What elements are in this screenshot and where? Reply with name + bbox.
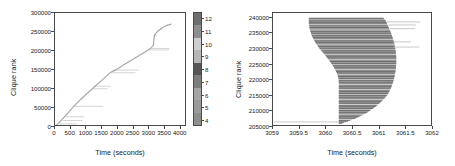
colorbar-tick-0: 4 — [205, 117, 208, 124]
right-x-tickmark-2 — [325, 126, 326, 129]
right-x-axis-label: Time (seconds) — [272, 148, 432, 157]
colorbar-tickmark-8 — [202, 18, 204, 19]
colorbar-tick-6: 10 — [205, 40, 212, 47]
right-y-tick-6: 235000 — [249, 29, 269, 36]
right-x-tick-6: 3062 — [425, 129, 439, 136]
left-y-tickmark-3 — [51, 69, 54, 70]
left-x-tickmark-5 — [133, 126, 134, 129]
right-y-tick-2: 215000 — [249, 91, 269, 98]
left-x-tickmark-8 — [180, 126, 181, 129]
left-plot-svg — [55, 13, 185, 125]
colorbar-tickmark-3 — [202, 82, 204, 83]
right-y-tick-3: 220000 — [249, 76, 269, 83]
left-x-tick-8: 4000 — [173, 129, 187, 136]
colorbar-tick-3: 7 — [205, 78, 208, 85]
left-y-tickmark-6 — [51, 12, 54, 13]
colorbar — [193, 12, 202, 126]
left-x-tickmark-7 — [164, 126, 165, 129]
left-y-tickmark-4 — [51, 50, 54, 51]
colorbar-tick-7: 11 — [205, 27, 211, 34]
right-y-tick-4: 225000 — [249, 60, 269, 67]
left-x-tick-1: 500 — [65, 129, 75, 136]
left-y-tickmark-2 — [51, 88, 54, 89]
right-x-tick-5: 3061.5 — [396, 129, 415, 136]
left-y-tick-4: 200000 — [31, 47, 51, 54]
colorbar-tickmark-2 — [202, 95, 204, 96]
right-y-tickmark-5 — [269, 48, 272, 49]
right-dense-band — [309, 18, 396, 124]
left-x-tickmark-6 — [148, 126, 149, 129]
right-x-tick-0: 3059 — [265, 129, 279, 136]
left-y-tickmark-5 — [51, 31, 54, 32]
right-y-tickmark-7 — [269, 17, 272, 18]
left-plot-area — [54, 12, 186, 126]
right-y-tickmark-3 — [269, 79, 272, 80]
colorbar-tickmark-0 — [202, 120, 204, 121]
right-x-tickmark-3 — [352, 126, 353, 129]
right-x-tick-2: 3060 — [319, 129, 333, 136]
right-y-tick-5: 230000 — [249, 44, 269, 51]
left-y-tick-6: 300000 — [31, 9, 51, 16]
left-y-tick-labels: 050000100000150000200000250000300000 — [0, 0, 51, 166]
left-x-tick-7: 3500 — [157, 129, 171, 136]
left-growth-curve — [56, 24, 171, 125]
right-plot-area — [272, 12, 432, 126]
two-panel-figure: Clique rank 0500001000001500002000002500… — [0, 0, 455, 166]
colorbar-tickmark-7 — [202, 31, 204, 32]
right-x-tickmark-5 — [405, 126, 406, 129]
left-x-tickmark-2 — [85, 126, 86, 129]
left-x-tickmark-0 — [54, 126, 55, 129]
colorbar-tick-2: 6 — [205, 91, 208, 98]
right-y-tick-1: 210000 — [249, 107, 269, 114]
left-x-tick-2: 1000 — [79, 129, 93, 136]
right-x-tickmark-6 — [432, 126, 433, 129]
right-y-tick-7: 240000 — [249, 13, 269, 20]
left-x-tick-3: 1500 — [94, 129, 108, 136]
colorbar-tickmark-1 — [202, 107, 204, 108]
left-y-tick-1: 50000 — [34, 104, 51, 111]
left-y-tick-5: 250000 — [31, 28, 51, 35]
colorbar-tickmark-6 — [202, 44, 204, 45]
panel-left: Clique rank 0500001000001500002000002500… — [0, 0, 228, 166]
right-y-tick-labels: 2050002100002150002200002250002300002350… — [228, 0, 269, 166]
colorbar-tickmark-5 — [202, 56, 204, 57]
right-y-tickmark-6 — [269, 32, 272, 33]
right-x-tick-3: 3060.5 — [343, 129, 362, 136]
right-x-tick-4: 3061 — [372, 129, 386, 136]
colorbar-tick-4: 8 — [205, 66, 208, 73]
colorbar-tickmark-4 — [202, 69, 204, 70]
left-x-tick-6: 3000 — [142, 129, 156, 136]
left-y-tick-3: 150000 — [31, 66, 51, 73]
left-x-tick-0: 0 — [52, 129, 55, 136]
right-plot-svg — [273, 13, 431, 125]
right-x-tickmark-1 — [299, 126, 300, 129]
left-x-tickmark-1 — [70, 126, 71, 129]
left-x-tick-5: 2500 — [126, 129, 140, 136]
left-x-tickmark-3 — [101, 126, 102, 129]
right-x-tick-1: 3059.5 — [289, 129, 308, 136]
right-x-tickmark-4 — [379, 126, 380, 129]
left-y-tickmark-1 — [51, 107, 54, 108]
panel-right: Clique rank 2050002100002150002200002250… — [228, 0, 455, 166]
left-x-tick-4: 2000 — [110, 129, 124, 136]
left-x-axis-label: Time (seconds) — [54, 148, 186, 157]
colorbar-tick-8: 12 — [205, 15, 212, 22]
right-y-tickmark-2 — [269, 95, 272, 96]
colorbar-tick-5: 9 — [205, 53, 208, 60]
left-x-tickmark-4 — [117, 126, 118, 129]
right-x-tickmark-0 — [272, 126, 273, 129]
left-y-tick-2: 100000 — [31, 85, 51, 92]
right-y-tickmark-4 — [269, 64, 272, 65]
right-y-tickmark-1 — [269, 110, 272, 111]
colorbar-tick-1: 5 — [205, 104, 208, 111]
